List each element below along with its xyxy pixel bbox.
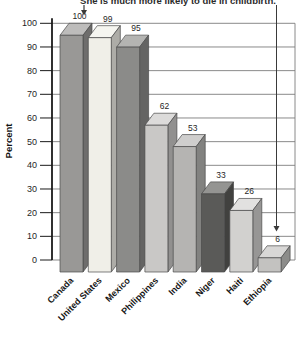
bar-mexico: [117, 35, 149, 272]
category-label-ethiopia: Ethiopia: [241, 275, 274, 308]
annotation-arrow-ethiopia-head: [274, 226, 280, 232]
y-tick-label-90: 90: [27, 42, 37, 52]
y-tick-label-30: 30: [27, 184, 37, 194]
chart-canvas: 0102030405060708090100 Percent 100999562…: [0, 0, 303, 341]
y-axis-ticks: 0102030405060708090100: [22, 18, 52, 265]
value-label-ethiopia: 6: [275, 234, 280, 244]
bar-ethiopia: [258, 246, 290, 272]
y-tick-label-100: 100: [22, 18, 37, 28]
bar-india: [173, 135, 205, 272]
bar-front-face-philippines: [145, 125, 168, 272]
bar-united-states: [88, 26, 120, 272]
y-tick-label-20: 20: [27, 208, 37, 218]
annotation-text: She is much more likely to die in childb…: [80, 0, 276, 6]
value-label-niger: 33: [216, 170, 226, 180]
bar-front-face-united-states: [88, 38, 111, 272]
value-label-united-states: 99: [103, 14, 113, 24]
value-label-philippines: 62: [160, 101, 170, 111]
bar-front-face-canada: [60, 35, 83, 272]
y-tick-label-80: 80: [27, 66, 37, 76]
category-label-india: India: [167, 275, 190, 298]
bar-philippines: [145, 113, 177, 272]
category-label-haiti: Haiti: [224, 275, 245, 296]
y-axis-title: Percent: [3, 123, 14, 159]
y-tick-label-40: 40: [27, 160, 37, 170]
bar-front-face-mexico: [117, 47, 140, 272]
bar-niger: [202, 182, 234, 272]
bar-front-face-niger: [202, 194, 225, 272]
y-tick-label-50: 50: [27, 137, 37, 147]
bar-front-face-ethiopia: [258, 258, 281, 272]
y-tick-label-70: 70: [27, 89, 37, 99]
bar-front-face-india: [173, 147, 196, 272]
value-label-india: 53: [188, 123, 198, 133]
category-labels-layer: CanadaUnited StatesMexicoPhilippinesIndi…: [45, 275, 274, 323]
value-label-mexico: 95: [131, 23, 141, 33]
bar-front-face-haiti: [230, 210, 253, 272]
bar-haiti: [230, 198, 262, 272]
bar-canada: [60, 23, 92, 272]
value-label-haiti: 26: [245, 186, 255, 196]
category-label-niger: Niger: [194, 275, 218, 299]
bar-chart-figure: 0102030405060708090100 Percent 100999562…: [0, 0, 303, 341]
bars-layer: [60, 23, 290, 272]
y-tick-label-10: 10: [27, 231, 37, 241]
y-tick-label-60: 60: [27, 113, 37, 123]
y-tick-label-0: 0: [32, 255, 37, 265]
